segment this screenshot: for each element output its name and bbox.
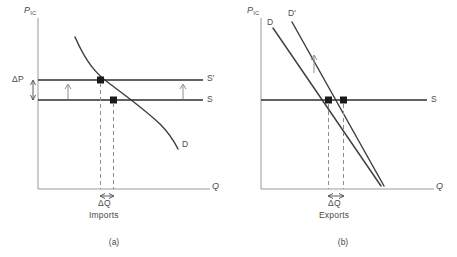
economics-figure: PIC Q ΔP S' S D ΔQ Imports (a) [0, 0, 457, 257]
x-axis-label-b: Q [436, 182, 443, 191]
demand-label-b: D [267, 18, 273, 27]
flow-label-b: Exports [319, 211, 349, 220]
equilibrium-marker-old-a [110, 97, 117, 104]
delta-quantity-label-a: ΔQ [98, 199, 111, 208]
demand-curve-a [75, 37, 178, 149]
supply-shift-arrow-right-a [180, 84, 186, 99]
panel-caption-a: (a) [0, 237, 228, 247]
demand-line-b [273, 28, 381, 186]
equilibrium-marker-old-b [325, 97, 332, 104]
delta-quantity-label-b: ΔQ [328, 199, 341, 208]
supply-label-b: S [431, 95, 437, 104]
equilibrium-marker-new-b [340, 97, 347, 104]
y-axis-label-a: PIC [24, 6, 37, 15]
supply-shift-arrow-left-a [65, 84, 71, 99]
equilibrium-marker-new-a [97, 77, 104, 84]
panel-caption-b: (b) [229, 237, 457, 247]
delta-price-label-a: ΔP [12, 75, 24, 84]
y-axis-label-b: PIC [247, 6, 260, 15]
panel-a-import-competing: PIC Q ΔP S' S D ΔQ Imports (a) [0, 0, 228, 257]
flow-label-a: Imports [89, 211, 119, 220]
x-axis-label-a: Q [212, 182, 219, 191]
demand-shifted-label-b: D' [288, 9, 296, 18]
supply-shifted-label-a: S' [207, 74, 215, 83]
delta-price-arrow-a [31, 80, 36, 100]
panel-b-export: PIC Q D D' S ΔQ Exports (b) [229, 0, 457, 257]
supply-label-a: S [207, 95, 213, 104]
demand-line-shifted-b [292, 22, 384, 186]
demand-label-a: D [182, 140, 188, 149]
